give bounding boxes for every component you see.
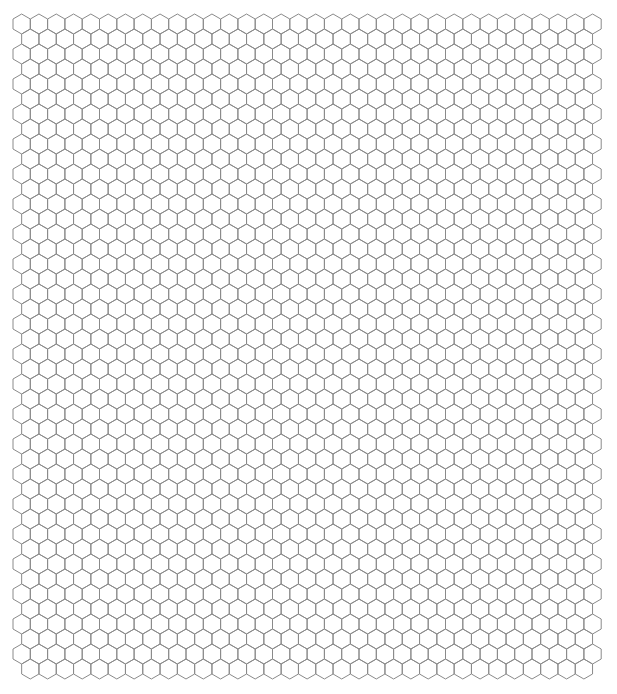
hexagonal-grid [0,0,617,694]
hex-cells [13,14,601,679]
